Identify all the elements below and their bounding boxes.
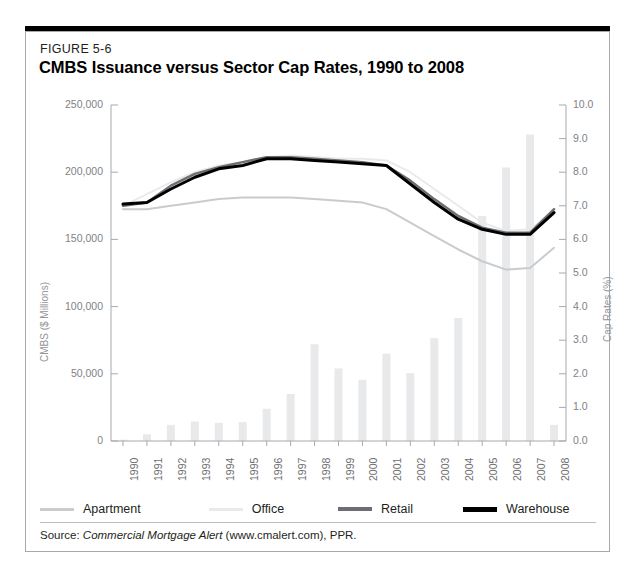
bar-1997 <box>287 394 295 441</box>
bar-2001 <box>382 354 390 441</box>
y-tick-label-right: 10.0 <box>573 98 613 110</box>
x-tick-label-1990: 1990 <box>128 441 140 481</box>
bar-1994 <box>215 423 223 441</box>
legend-label-apartment: Apartment <box>83 502 141 516</box>
y-tick-label-left: 200,000 <box>41 165 103 177</box>
y-tick-label-right: 7.0 <box>573 199 613 211</box>
chart-svg <box>26 32 611 553</box>
y-tick-label-right: 4.0 <box>573 300 613 312</box>
line-series-apartment <box>123 197 554 269</box>
x-tick-label-1999: 1999 <box>344 441 356 481</box>
source-note: Source: Commercial Mortgage Alert (www.c… <box>40 529 357 541</box>
legend-divider <box>40 522 596 523</box>
bar-1992 <box>167 425 175 441</box>
legend-label-retail: Retail <box>381 502 413 516</box>
chart-plot-area: CMBS ($ Millions) Cap Rates (%) 050,0001… <box>26 32 611 553</box>
y-tick-label-right: 8.0 <box>573 165 613 177</box>
line-series-retail <box>123 157 554 233</box>
source-suffix: (www.cmalert.com), PPR. <box>222 529 356 541</box>
x-tick-label-1995: 1995 <box>248 441 260 481</box>
x-tick-label-1991: 1991 <box>152 441 164 481</box>
bar-2002 <box>406 373 414 441</box>
x-tick-label-2002: 2002 <box>415 441 427 481</box>
source-prefix: Source: <box>40 529 83 541</box>
x-tick-label-2001: 2001 <box>391 441 403 481</box>
y-tick-label-left: 50,000 <box>41 367 103 379</box>
legend-item-warehouse[interactable]: Warehouse <box>463 502 569 516</box>
bar-1998 <box>311 344 319 441</box>
legend-label-office: Office <box>252 502 284 516</box>
x-tick-label-1992: 1992 <box>176 441 188 481</box>
bar-2007 <box>526 135 534 441</box>
source-publication: Commercial Mortgage Alert <box>83 529 223 541</box>
bar-1996 <box>263 409 271 441</box>
legend-swatch-retail <box>338 507 372 511</box>
y-axis-left-title: CMBS ($ Millions) <box>39 282 50 362</box>
y-tick-label-right: 5.0 <box>573 266 613 278</box>
y-tick-label-right: 3.0 <box>573 333 613 345</box>
chart-legend: ApartmentOfficeRetailWarehouse <box>40 496 596 522</box>
y-tick-label-right: 1.0 <box>573 400 613 412</box>
x-tick-label-2008: 2008 <box>559 441 571 481</box>
bar-1993 <box>191 422 199 441</box>
legend-item-office[interactable]: Office <box>209 502 284 516</box>
legend-swatch-apartment <box>40 508 74 511</box>
bar-2004 <box>454 318 462 441</box>
y-tick-label-left: 250,000 <box>41 98 103 110</box>
legend-swatch-warehouse <box>463 507 497 512</box>
y-tick-label-right: 6.0 <box>573 232 613 244</box>
x-tick-label-1994: 1994 <box>224 441 236 481</box>
bar-2005 <box>478 216 486 441</box>
figure-container: FIGURE 5-6 CMBS Issuance versus Sector C… <box>25 31 610 552</box>
x-tick-label-1996: 1996 <box>272 441 284 481</box>
bar-2008 <box>550 425 558 441</box>
legend-item-apartment[interactable]: Apartment <box>40 502 141 516</box>
x-tick-label-2005: 2005 <box>487 441 499 481</box>
legend-item-retail[interactable]: Retail <box>338 502 413 516</box>
y-tick-label-right: 9.0 <box>573 132 613 144</box>
bar-2000 <box>358 380 366 441</box>
x-tick-label-2003: 2003 <box>439 441 451 481</box>
line-series-warehouse <box>123 159 554 235</box>
bar-2006 <box>502 168 510 442</box>
x-tick-label-1997: 1997 <box>296 441 308 481</box>
bar-1991 <box>143 434 151 441</box>
line-series-office <box>123 155 554 231</box>
x-tick-label-2006: 2006 <box>511 441 523 481</box>
x-tick-label-2007: 2007 <box>535 441 547 481</box>
bar-2003 <box>430 338 438 441</box>
bar-1999 <box>335 368 343 441</box>
bar-1995 <box>239 422 247 441</box>
x-tick-label-2004: 2004 <box>463 441 475 481</box>
x-tick-label-1998: 1998 <box>320 441 332 481</box>
y-tick-label-left: 0 <box>41 434 103 446</box>
y-tick-label-right: 2.0 <box>573 367 613 379</box>
x-tick-label-1993: 1993 <box>200 441 212 481</box>
y-tick-label-left: 150,000 <box>41 232 103 244</box>
x-tick-label-2000: 2000 <box>367 441 379 481</box>
y-tick-label-right: 0.0 <box>573 434 613 446</box>
legend-label-warehouse: Warehouse <box>506 502 569 516</box>
legend-swatch-office <box>209 508 243 511</box>
y-tick-label-left: 100,000 <box>41 300 103 312</box>
